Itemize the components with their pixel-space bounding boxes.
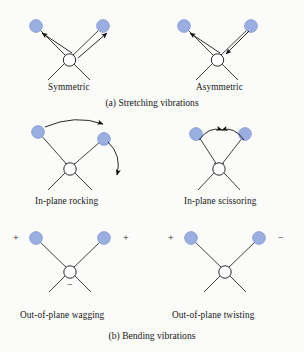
- atom-left: [185, 232, 198, 245]
- vibration-modes-figure: [0, 0, 304, 352]
- sign-wagging-right-plus: +: [123, 233, 129, 243]
- tail-lower-left: [48, 66, 62, 80]
- atom-right: [98, 232, 111, 245]
- tail-lower-right: [77, 175, 92, 190]
- atom-left: [178, 20, 191, 33]
- central-atom: [63, 54, 75, 66]
- label-in-plane-rocking: In-plane rocking: [35, 196, 98, 206]
- central-atom: [64, 266, 76, 278]
- diagram-asymmetric: [178, 20, 258, 80]
- label-out-of-plane-wagging: Out-of-plane wagging: [20, 310, 104, 320]
- caption-stretching-vibrations: (a) Stretching vibrations: [0, 97, 304, 108]
- diagram-in-plane-scissoring: [190, 128, 252, 190]
- atom-right: [245, 20, 258, 33]
- arrow-rock-right-down: [108, 142, 118, 175]
- arrow-left-outward: [42, 33, 72, 53]
- tail-lower-left: [49, 278, 63, 292]
- tail-lower-right: [224, 66, 238, 80]
- diagram-symmetric: [30, 20, 110, 80]
- atom-left: [30, 20, 43, 33]
- tail-lower-left: [204, 278, 218, 292]
- atom-right: [98, 133, 111, 146]
- atom-left: [32, 126, 45, 139]
- sign-twisting-left-plus: +: [168, 233, 174, 243]
- tail-lower-right: [76, 66, 90, 80]
- tail-lower-right: [77, 278, 91, 292]
- label-asymmetric: Asymmetric: [196, 82, 243, 92]
- label-out-of-plane-twisting: Out-of-plane twisting: [172, 310, 254, 320]
- caption-bending-vibrations: (b) Bending vibrations: [0, 330, 304, 341]
- tail-lower-left: [196, 66, 210, 80]
- atom-right: [253, 232, 266, 245]
- tail-lower-right: [232, 278, 246, 292]
- central-atom: [211, 54, 223, 66]
- diagram-out-of-plane-twisting: [185, 232, 266, 292]
- arrow-left-outward: [190, 33, 220, 53]
- sign-twisting-right-minus: −: [278, 233, 284, 243]
- diagram-in-plane-rocking: [32, 120, 119, 190]
- atom-right: [239, 128, 252, 141]
- atom-left: [30, 232, 43, 245]
- atom-right: [97, 20, 110, 33]
- sign-wagging-left-plus: +: [13, 233, 19, 243]
- tail-lower-left: [198, 175, 212, 190]
- central-atom: [219, 266, 231, 278]
- central-atom: [64, 163, 76, 175]
- sign-wagging-center-minus: −: [67, 280, 73, 290]
- arrow-right-inward: [226, 31, 249, 54]
- tail-lower-right: [226, 175, 240, 190]
- label-symmetric: Symmetric: [48, 82, 90, 92]
- central-atom: [213, 163, 225, 175]
- tail-lower-left: [48, 175, 63, 190]
- label-in-plane-scissoring: In-plane scissoring: [184, 196, 256, 206]
- arrow-rock-top: [45, 120, 103, 127]
